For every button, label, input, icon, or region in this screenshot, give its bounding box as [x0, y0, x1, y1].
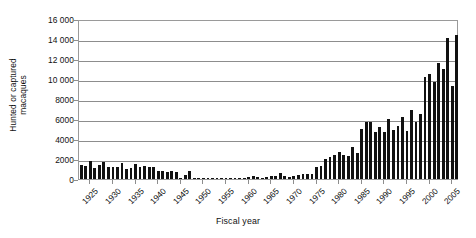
y-axis-tick-label: 8000 [55, 95, 74, 105]
bar [283, 176, 286, 179]
bar [387, 119, 390, 179]
bar [179, 178, 182, 179]
x-axis-tick-mark [429, 180, 430, 184]
bar [324, 159, 327, 179]
bar [247, 177, 250, 179]
bar [243, 178, 246, 179]
bar [211, 178, 214, 179]
plot-area [78, 20, 458, 180]
x-axis-tick-mark [180, 180, 181, 184]
bar [207, 178, 210, 179]
bar [202, 178, 205, 179]
bar [261, 178, 264, 180]
y-axis-tick-mark [73, 180, 78, 181]
bar [252, 176, 255, 179]
y-axis-tick-mark [73, 100, 78, 101]
bar [410, 110, 413, 179]
y-axis-tick-mark [73, 40, 78, 41]
bar [93, 168, 96, 180]
y-axis-tick-label: 14 000 [48, 35, 74, 45]
x-axis-tick-mark [157, 180, 158, 184]
bar [107, 167, 110, 179]
y-axis-tick-mark [73, 20, 78, 21]
x-axis-tick-mark [248, 180, 249, 184]
bar [311, 174, 314, 179]
bar [157, 171, 160, 179]
bar [125, 169, 128, 179]
y-axis-tick-labels: 0200040006000800010 00012 00014 00016 00… [28, 20, 74, 180]
bar [446, 38, 449, 179]
bar [347, 156, 350, 179]
bar [80, 165, 83, 179]
bar [234, 178, 237, 179]
bar [143, 166, 146, 179]
bar [238, 178, 241, 179]
bar [297, 175, 300, 179]
bar [433, 82, 436, 180]
bar [424, 77, 427, 179]
bar-series [79, 21, 457, 179]
x-axis-tick-mark [451, 180, 452, 184]
bar [288, 177, 291, 180]
bar [302, 174, 305, 179]
x-axis-title: Fiscal year [0, 216, 476, 226]
bar [102, 162, 105, 180]
bar [338, 152, 341, 179]
bar [220, 178, 223, 179]
bar [406, 131, 409, 179]
bar [365, 122, 368, 179]
y-axis-tick-mark [73, 80, 78, 81]
bar [415, 122, 418, 180]
x-axis-tick-mark [225, 180, 226, 184]
bar [419, 114, 422, 179]
x-axis-tick-mark [338, 180, 339, 184]
bar [89, 161, 92, 179]
y-axis-tick-mark [73, 120, 78, 121]
y-axis-tick-label: 4000 [55, 135, 74, 145]
bar [225, 178, 228, 179]
bar [333, 155, 336, 180]
y-axis-tick-label: 12 000 [48, 55, 74, 65]
bar [148, 167, 151, 180]
y-axis-tick-label: 10 000 [48, 75, 74, 85]
y-axis-tick-label: 2000 [55, 155, 74, 165]
bar [130, 168, 133, 180]
bar [170, 171, 173, 179]
x-axis-tick-mark [89, 180, 90, 184]
y-axis-tick-mark [73, 140, 78, 141]
x-axis-tick-mark [361, 180, 362, 184]
bar [98, 165, 101, 179]
bar [455, 35, 458, 179]
bar [197, 178, 200, 179]
y-axis-tick-label: 16 000 [48, 15, 74, 25]
x-axis-tick-mark [112, 180, 113, 184]
bar [351, 147, 354, 180]
bar [274, 176, 277, 179]
bar [397, 126, 400, 179]
x-axis-tick-mark [406, 180, 407, 184]
chart-figure: Hunted or captured macaques 020004000600… [0, 0, 476, 238]
bar [392, 130, 395, 179]
bar [175, 172, 178, 180]
bar [292, 176, 295, 179]
x-axis-tick-mark [316, 180, 317, 184]
bar [306, 174, 309, 179]
bar [383, 132, 386, 180]
bar [401, 117, 404, 179]
bar [428, 74, 431, 179]
bar [161, 171, 164, 179]
bar [229, 178, 232, 179]
bar [216, 178, 219, 179]
bar [116, 167, 119, 180]
bar [315, 167, 318, 179]
bar [112, 167, 115, 180]
bar [152, 167, 155, 179]
y-axis-tick-label: 6000 [55, 115, 74, 125]
bar [265, 177, 268, 179]
y-axis-tick-mark [73, 160, 78, 161]
bar [184, 175, 187, 180]
bar [121, 163, 124, 179]
bar [356, 153, 359, 179]
bar [369, 122, 372, 180]
bar [193, 178, 196, 179]
